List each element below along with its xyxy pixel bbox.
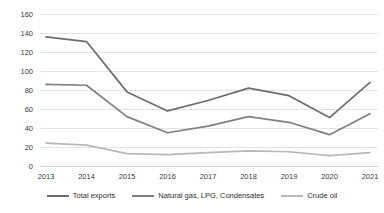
x-tick-label: 2017 bbox=[200, 172, 217, 181]
x-tick-label: 2016 bbox=[159, 172, 176, 181]
legend-label: Natural gas, LPG, Condensates bbox=[158, 191, 264, 200]
chart-legend: Total exportsNatural gas, LPG, Condensat… bbox=[0, 191, 384, 200]
x-tick-label: 2020 bbox=[321, 172, 338, 181]
x-tick-label: 2019 bbox=[281, 172, 298, 181]
legend-item[interactable]: Crude oil bbox=[281, 191, 337, 200]
x-tick-label: 2015 bbox=[119, 172, 136, 181]
legend-swatch-icon bbox=[132, 195, 154, 197]
legend-item[interactable]: Natural gas, LPG, Condensates bbox=[132, 191, 264, 200]
legend-label: Total exports bbox=[73, 191, 116, 200]
x-tick-label: 2013 bbox=[38, 172, 55, 181]
chart-x-axis: 201320142015201620172018201920202021 bbox=[0, 0, 384, 213]
x-tick-label: 2014 bbox=[78, 172, 95, 181]
legend-item[interactable]: Total exports bbox=[47, 191, 116, 200]
x-tick-label: 2021 bbox=[362, 172, 379, 181]
x-tick-label: 2018 bbox=[240, 172, 257, 181]
line-chart: 020406080100120140160 201320142015201620… bbox=[0, 0, 384, 213]
legend-swatch-icon bbox=[281, 195, 303, 197]
legend-label: Crude oil bbox=[307, 191, 337, 200]
legend-swatch-icon bbox=[47, 195, 69, 197]
